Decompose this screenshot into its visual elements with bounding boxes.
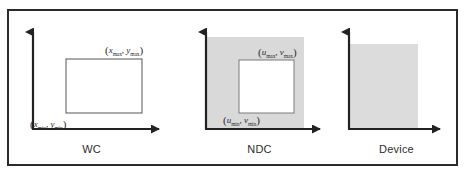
wc-window-rect [66, 59, 142, 113]
figure-border: (xmax, ymax) (xmin, ymin) WC [7, 9, 458, 166]
panel-caption-wc: WC [9, 143, 174, 155]
panel-wc: (xmax, ymax) (xmin, ymin) WC [9, 11, 174, 164]
viewing-transformation-figure: (xmax, ymax) (xmin, ymin) WC [0, 0, 466, 176]
wc-diagram [9, 11, 174, 164]
panel-caption-device: Device [337, 143, 456, 155]
ndc-max-label: (umax, vmax) [258, 47, 297, 59]
panel-device: Device [337, 11, 456, 164]
wc-min-label: (xmin, ymin) [30, 119, 66, 131]
panel-caption-ndc: NDC [187, 143, 332, 155]
panel-ndc: (umax, vmax) (umin, vmin) NDC [187, 11, 332, 164]
ndc-min-label: (umin, vmin) [223, 115, 260, 127]
wc-max-label: (xmax, ymax) [105, 45, 143, 57]
ndc-viewport-rect [239, 60, 294, 113]
device-shaded-rect [349, 44, 418, 129]
device-diagram [337, 11, 456, 164]
ndc-diagram [187, 11, 332, 164]
